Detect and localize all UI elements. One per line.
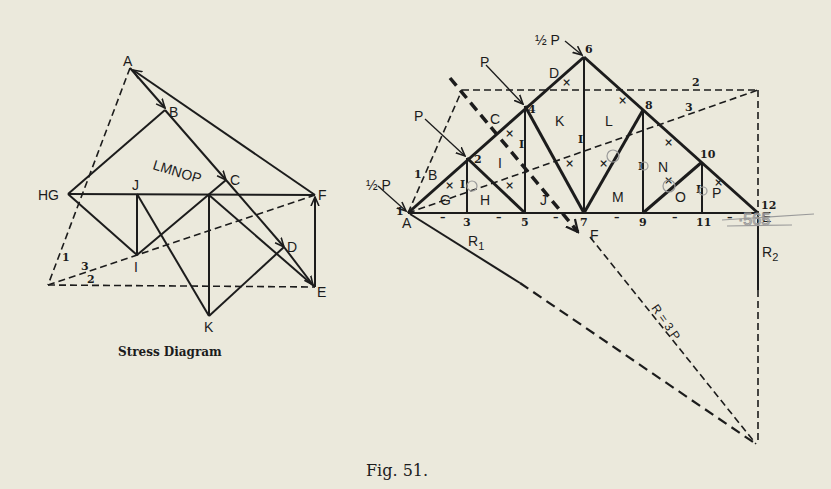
label-E: E xyxy=(317,284,326,300)
panel-B: B xyxy=(428,167,437,183)
svg-text:×: × xyxy=(714,176,723,189)
label-F: F xyxy=(318,187,327,203)
label-J: J xyxy=(132,177,139,193)
label-I: I xyxy=(134,259,138,275)
svg-text:–: – xyxy=(672,211,678,224)
stress-bottom-chord xyxy=(68,194,315,195)
panel-A: A xyxy=(402,215,412,231)
svg-text:I: I xyxy=(460,178,465,191)
pencil-note: ·565 xyxy=(738,211,770,228)
panel-O: O xyxy=(675,189,686,205)
reaction-R1-dashed xyxy=(520,283,756,444)
truss-ray-2: 2 xyxy=(692,76,700,89)
truss-ray-3: 3 xyxy=(685,101,693,114)
panel-G: G xyxy=(440,192,451,208)
truss-ray-1: 1 xyxy=(414,168,422,181)
joint-10: 10 xyxy=(700,148,716,161)
panel-M: M xyxy=(612,189,624,205)
joint-11: 11 xyxy=(696,216,711,229)
svg-text:×: × xyxy=(599,157,608,170)
svg-text:–: – xyxy=(553,211,559,224)
load-CD xyxy=(226,180,284,247)
svg-text:×: × xyxy=(664,136,673,149)
member-2-5 xyxy=(467,158,525,213)
svg-text:×: × xyxy=(445,179,454,192)
panel-N: N xyxy=(658,159,668,175)
stress-diagram-title: Stress Diagram xyxy=(118,345,222,359)
svg-text:×: × xyxy=(562,76,571,89)
panel-K: K xyxy=(555,113,565,129)
panel-I: I xyxy=(498,155,502,171)
resultant-line xyxy=(450,78,578,232)
svg-text:–: – xyxy=(727,211,733,224)
load-p-4 xyxy=(486,65,523,104)
label-ray-3: 3 xyxy=(81,260,89,273)
joint-8: 8 xyxy=(645,99,653,112)
svg-text:–: – xyxy=(440,211,446,224)
stress-diagram: A B C D E F HG J I K LMNOP 1 3 2 Stress … xyxy=(38,53,327,359)
label-ray-1: 1 xyxy=(62,251,70,264)
panel-J: J xyxy=(540,192,547,208)
load-label-p-2: P xyxy=(414,108,423,124)
reaction-label-R1: R1 xyxy=(468,233,484,252)
label-A: A xyxy=(123,53,133,69)
joint-3: 3 xyxy=(463,216,471,229)
load-half-p-top xyxy=(565,41,582,55)
load-label-half-p-left: ½ P xyxy=(366,177,391,193)
panel-F: F xyxy=(590,227,599,243)
stress-BG xyxy=(68,110,165,194)
figure-caption: Fig. 51. xyxy=(366,461,428,480)
reaction-label-R2: R2 xyxy=(762,244,778,263)
member-9-10 xyxy=(643,162,702,213)
stress-DK xyxy=(209,247,284,316)
svg-text:I: I xyxy=(578,133,583,146)
stress-JK xyxy=(137,194,209,316)
label-LMNOP: LMNOP xyxy=(151,157,203,187)
load-label-p-4: P xyxy=(480,54,489,70)
joint-7: 7 xyxy=(580,216,588,229)
figure-canvas: A B C D E F HG J I K LMNOP 1 3 2 Stress … xyxy=(0,0,831,489)
load-label-half-p-top: ½ P xyxy=(535,32,560,48)
svg-text:–: – xyxy=(614,211,620,224)
label-K: K xyxy=(204,319,214,335)
joint-9: 9 xyxy=(639,216,647,229)
svg-text:–: – xyxy=(496,211,502,224)
svg-text:×: × xyxy=(565,157,574,170)
joint-6: 6 xyxy=(585,43,593,56)
label-D: D xyxy=(287,239,297,255)
svg-text:×: × xyxy=(618,94,627,107)
panel-L: L xyxy=(605,113,613,129)
panel-H: H xyxy=(480,192,490,208)
label-B: B xyxy=(169,104,178,120)
joint-4: 4 xyxy=(528,103,536,116)
label-ray-2: 2 xyxy=(87,273,95,286)
svg-text:×: × xyxy=(505,127,514,140)
joint-5: 5 xyxy=(521,216,529,229)
label-HG: HG xyxy=(38,187,59,203)
panel-C: C xyxy=(490,111,500,127)
panel-D: D xyxy=(549,65,559,81)
truss-diagram: ½ P P P ½ P 1 2 3 4 5 6 7 8 9 10 11 12 A… xyxy=(366,32,814,444)
stress-GH-I xyxy=(68,194,137,255)
resultant-label: R = 3 P xyxy=(649,302,684,343)
label-C: C xyxy=(230,172,240,188)
svg-text:×: × xyxy=(505,179,514,192)
joint-2: 2 xyxy=(474,153,482,166)
stress-LMNOP-E xyxy=(209,195,315,287)
load-p-2 xyxy=(425,119,465,156)
svg-text:I: I xyxy=(519,138,524,151)
